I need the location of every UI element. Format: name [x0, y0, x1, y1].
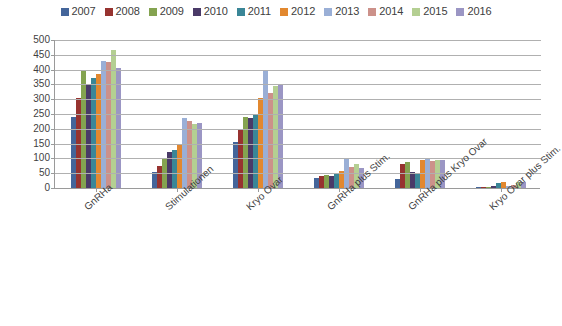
legend-item-2012[interactable]: 2012 [280, 6, 315, 17]
legend-item-2014[interactable]: 2014 [368, 6, 403, 17]
y-tickmark [51, 158, 55, 159]
gridline [55, 70, 541, 71]
y-tick-label: 50 [39, 168, 50, 178]
y-tickmark [51, 114, 55, 115]
legend-item-2007[interactable]: 2007 [61, 6, 96, 17]
legend-item-2016[interactable]: 2016 [456, 6, 491, 17]
legend-swatch-icon [456, 8, 464, 16]
gridline [55, 84, 541, 85]
gridline [55, 114, 541, 115]
gridline [55, 144, 541, 145]
gridline [55, 129, 541, 130]
x-axis-category-labels: GnRHaStimulationenKryo OvarGnRHa plus St… [54, 200, 540, 320]
legend-label: 2012 [291, 6, 315, 17]
legend-label: 2014 [379, 6, 403, 17]
legend-label: 2008 [116, 6, 140, 17]
legend-label: 2015 [423, 6, 447, 17]
y-tickmark [51, 173, 55, 174]
legend-item-2010[interactable]: 2010 [193, 6, 228, 17]
legend-item-2015[interactable]: 2015 [412, 6, 447, 17]
y-tickmark [51, 99, 55, 100]
legend-swatch-icon [149, 8, 157, 16]
y-tick-label: 500 [33, 35, 50, 45]
y-tickmark [51, 55, 55, 56]
legend-item-2008[interactable]: 2008 [105, 6, 140, 17]
y-tick-label: 400 [33, 65, 50, 75]
chart-legend: 2007200820092010201120122013201420152016 [0, 6, 552, 17]
y-tickmark [51, 40, 55, 41]
x-axis-line [54, 188, 540, 189]
y-tickmark [51, 144, 55, 145]
legend-label: 2016 [467, 6, 491, 17]
legend-swatch-icon [368, 8, 376, 16]
gridline [55, 99, 541, 100]
y-tickmark [51, 84, 55, 85]
y-axis: 500450400350300250200150100500 [18, 40, 50, 188]
legend-swatch-icon [61, 8, 69, 16]
legend-swatch-icon [280, 8, 288, 16]
legend-swatch-icon [105, 8, 113, 16]
y-tick-label: 250 [33, 109, 50, 119]
legend-swatch-icon [237, 8, 245, 16]
legend-label: 2009 [160, 6, 184, 17]
plot-area [54, 40, 541, 188]
legend-swatch-icon [193, 8, 201, 16]
gridline [55, 55, 541, 56]
legend-label: 2013 [335, 6, 359, 17]
gridline [55, 40, 541, 41]
legend-label: 2007 [72, 6, 96, 17]
y-tickmark [51, 70, 55, 71]
y-tick-label: 150 [33, 139, 50, 149]
legend-swatch-icon [412, 8, 420, 16]
y-tick-label: 0 [44, 183, 50, 193]
legend-label: 2011 [248, 6, 271, 17]
legend-item-2013[interactable]: 2013 [324, 6, 359, 17]
legend-label: 2010 [204, 6, 228, 17]
y-tick-label: 300 [33, 94, 50, 104]
y-tick-label: 200 [33, 124, 50, 134]
legend-swatch-icon [324, 8, 332, 16]
gridline [55, 173, 541, 174]
legend-item-2009[interactable]: 2009 [149, 6, 184, 17]
y-tick-label: 450 [33, 50, 50, 60]
y-tick-label: 100 [33, 153, 50, 163]
y-tickmark [51, 129, 55, 130]
legend-item-2011[interactable]: 2011 [237, 6, 271, 17]
y-tick-label: 350 [33, 79, 50, 89]
